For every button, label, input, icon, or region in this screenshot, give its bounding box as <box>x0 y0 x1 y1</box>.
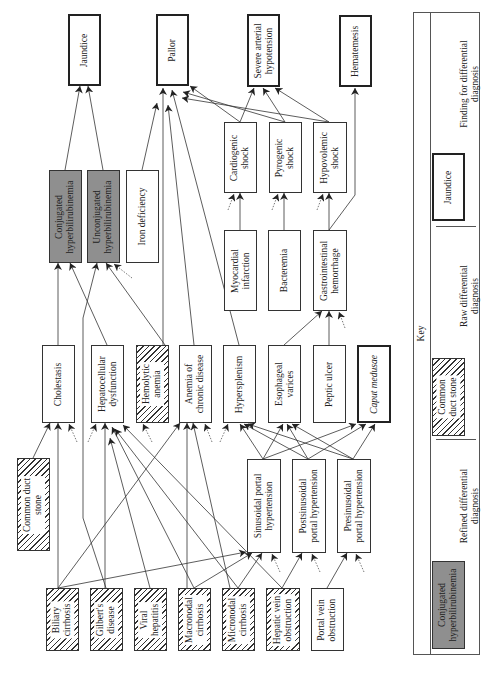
node-label: Hemolytic anemia <box>141 362 165 406</box>
node-biliary-cirrhosis: Biliary cirrhosis <box>46 588 79 651</box>
node-hepatocellular-dysfunction: Hepatocellular dysfunction <box>91 345 124 423</box>
node-gilberts-disease: Gilbert's disease <box>90 588 123 651</box>
node-label: Gilbert's disease <box>95 601 119 637</box>
legend-sample-label: Common duct stone <box>437 376 461 419</box>
node-hepatic-vein-obstruction: Hepatic vein obstruction <box>266 588 300 651</box>
legend-desc-text: Refined differential diagnosis <box>459 468 481 542</box>
node-label: Cardiogenic shock <box>230 134 252 180</box>
node-portal-vein-obstruction: Portal vein obstruction <box>311 588 344 651</box>
node-postsinusoidal-portal-hypertension: Postsinusoidal portal hypertension <box>292 459 326 553</box>
node-hypersplenism: Hypersplenism <box>223 345 256 423</box>
node-label: Hepatocellular dysfunction <box>97 356 119 412</box>
node-label: Jaundice <box>79 33 90 66</box>
node-cholestasis: Cholestasis <box>42 345 75 423</box>
node-label: Biliary cirrhosis <box>51 601 75 638</box>
node-sinusoidal-portal-hypertension: Sinusoidal portal hypertension <box>247 459 281 553</box>
legend-desc-refined: Refined differential diagnosis <box>460 443 480 568</box>
node-myocardial-infarction: Myocardial infarction <box>224 230 257 311</box>
node-viral-hepatitis: Viral hepatitis <box>134 588 167 651</box>
node-label: Conjugated hyperbilirubinemia <box>55 180 77 253</box>
legend-sample-label: Jaundice <box>443 170 454 203</box>
node-cardiogenic-shock: Cardiogenic shock <box>224 122 257 193</box>
node-label: Hypovolemic shock <box>319 132 341 184</box>
node-presinusoidal-portal-hypertension: Presinusoidal portal hypertension <box>337 459 371 553</box>
node-esophageal-varices: Esophageal varices <box>268 345 301 423</box>
legend: Key Jaundice Finding for differential di… <box>413 12 480 655</box>
node-label: Common duct stone <box>22 475 46 533</box>
node-label: Pyrogenic shock <box>275 138 297 177</box>
node-label: Gastrointestinal hemorrhage <box>319 240 341 300</box>
node-label: Micronodal cirrhosis <box>227 595 251 643</box>
node-label: Hematemesis <box>350 25 361 76</box>
node-label: Portal vein obstruction <box>317 598 339 641</box>
legend-desc-text: Finding for differential diagnosis <box>459 40 481 127</box>
node-label: Postsinusoidal portal hypertension <box>298 469 320 543</box>
node-peptic-ulcer: Peptic ulcer <box>313 345 346 423</box>
legend-desc-finding: Finding for differential diagnosis <box>460 21 480 146</box>
node-unconjugated-hyperbilirubinemia: Unconjugated hyperbilirubinemia <box>87 170 120 263</box>
node-label: Anemia of chronic disease <box>185 355 207 413</box>
node-label: Sinusoidal portal hypertension <box>253 474 275 539</box>
node-label: Myocardial infarction <box>230 249 252 293</box>
legend-sample-finding: Jaundice <box>432 153 465 221</box>
node-label: Unconjugated hyperbilirubinemia <box>93 180 115 253</box>
node-severe-arterial-hypotension: Severe arterial hypotension <box>247 14 280 87</box>
legend-sample-refined: Conjugated hyperbilirubinemia <box>432 561 465 649</box>
node-pyrogenic-shock: Pyrogenic shock <box>269 122 302 193</box>
node-micronodal-cirrhosis: Micronodal cirrhosis <box>222 588 255 651</box>
legend-divider <box>436 226 476 227</box>
node-label: Pallor <box>167 39 178 62</box>
node-label: Bacteremia <box>279 249 290 292</box>
legend-sample-label: Conjugated hyperbilirubinemia <box>438 569 460 642</box>
node-label: Severe arterial hypotension <box>253 23 275 78</box>
legend-sample-raw: Common duct stone <box>432 358 465 436</box>
node-label: Cholestasis <box>53 362 64 405</box>
node-hemolytic-anemia: Hemolytic anemia <box>136 345 169 423</box>
node-label: Peptic ulcer <box>324 361 335 406</box>
node-conjugated-hyperbilirubinemia: Conjugated hyperbilirubinemia <box>49 170 82 263</box>
node-label: Presinusoidal portal hypertension <box>343 469 365 543</box>
legend-title: Key <box>414 13 430 654</box>
legend-desc-raw: Raw differential diagnosis <box>460 233 480 358</box>
node-iron-deficiency: Iron deficiency <box>126 170 159 263</box>
node-common-duct-stone: Common duct stone <box>17 458 50 551</box>
legend-title-text: Key <box>416 326 427 342</box>
node-label: Viral hepatitis <box>139 601 163 637</box>
node-label: Esophageal varices <box>274 362 296 406</box>
node-caput-medusae: Caput medusae <box>357 345 391 423</box>
node-label: Hepatic vein obstruction <box>271 593 295 645</box>
node-hematemesis: Hematemesis <box>339 15 372 87</box>
node-anemia-of-chronic-disease: Anemia of chronic disease <box>179 345 212 423</box>
legend-desc-text: Raw differential diagnosis <box>459 265 481 327</box>
node-label: Hypersplenism <box>234 355 245 413</box>
node-label: Caput medusae <box>369 355 380 414</box>
node-bacteremia: Bacteremia <box>268 230 301 311</box>
node-hypovolemic-shock: Hypovolemic shock <box>313 122 347 193</box>
node-label: Iron deficiency <box>137 188 148 246</box>
node-macronodal-cirrhosis: Macronodal cirrhosis <box>178 588 211 651</box>
node-pallor: Pallor <box>156 14 189 86</box>
node-gastrointestinal-hemorrhage: Gastrointestinal hemorrhage <box>313 230 347 311</box>
legend-divider <box>436 439 476 440</box>
node-jaundice: Jaundice <box>68 14 101 86</box>
node-label: Macronodal cirrhosis <box>183 595 207 645</box>
